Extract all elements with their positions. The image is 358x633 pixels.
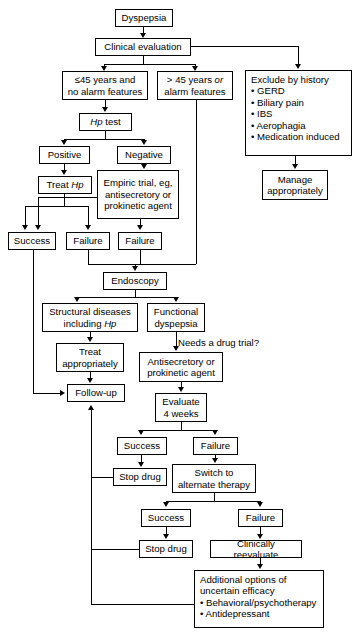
arrow-to-exclude-by-history [295,64,301,69]
arrow-to-empiric-trial [141,164,147,169]
node-follow-up: Follow-up [67,384,125,402]
edge-clinical-to-exclude-h [191,46,299,47]
arrow-to-endoscopy [132,266,138,271]
additional-title-line1: Additional options of [200,574,286,585]
node-manage-appropriately: Manage appropriately [262,170,328,200]
node-negative-label: Negative [125,149,163,160]
exclude-item-aerophagia: • Aerophagia [251,120,306,131]
exclude-title: Exclude by history [251,74,329,85]
arrow-to-negative [141,140,147,145]
node-clinical-evaluation: Clinical evaluation [95,38,191,56]
structural-line1: Structural diseases [49,306,131,317]
edge-treat-hp-right [88,206,89,226]
arrow-treat-hp-to-success [22,225,28,230]
edge-switch-bus [166,501,261,502]
arrow-to-follow-up [87,378,93,383]
edge-functional-to-antisecretory [176,332,177,346]
node-manage-appropriately-label: Manage appropriately [267,174,322,197]
edge-stop-drug-2-return [91,549,140,550]
edge-failure-1-down [88,250,89,264]
edge-success-2-to-stop-drug-1 [141,455,142,462]
treat-hp-italic: Hp [71,179,83,190]
node-failure-4-label: Failure [246,512,275,523]
treat-hp-pre: Treat [47,179,72,190]
edge-stop-drug-1-return [91,477,114,478]
edge-treat-hp-bus [25,206,88,207]
node-stop-drug-2: Stop drug [139,540,193,558]
edge-endoscopy-down [135,290,136,297]
arrow-to-structural-diseases [74,297,80,302]
node-success-2-label: Success [124,440,160,451]
arrow-to-positive [61,140,67,145]
edge-switch-down [214,493,215,501]
arrow-empiric-to-success [35,225,41,230]
node-clinically-reevaluate: Clinically reevaluate [210,540,302,558]
node-success-3-label: Success [148,512,184,523]
node-failure-4: Failure [238,509,283,527]
node-stop-drug-2-label: Stop drug [145,543,187,554]
edge-failure-4-to-reevaluate [260,527,261,534]
node-older-or-alarm-age: > 45 years [167,74,215,85]
node-treat-hp-label: Treat Hp [47,179,84,190]
node-dyspepsia: Dyspepsia [115,9,173,27]
edge-clinical-to-exclude-v [298,46,299,64]
node-treat-appropriately-label: Treat appropriately [62,346,117,369]
arrow-to-functional-dyspepsia [173,297,179,302]
arrow-to-success-3 [163,502,169,507]
node-older-or-alarm-line2: alarm features [164,86,225,97]
edge-endoscopy-split-bus [77,297,176,298]
hp-test-rest: test [103,116,121,127]
node-hp-test-label: Hp test [90,116,120,127]
arrow-return-to-follow-up [88,405,94,410]
caption-needs-drug-trial-label: Needs a drug trial? [178,337,259,348]
exclude-item-medication-induced: • Medication induced [251,131,340,142]
additional-title-line2: uncertain efficacy [200,585,274,596]
arrow-to-manage-appropriately [292,164,298,169]
node-antisecretory-prokinetic: Antisecretory or prokinetic agent [139,352,223,382]
node-older-or-alarm-or: or [215,74,224,85]
edge-failure-2-down [140,250,141,264]
node-older-or-alarm-line1: > 45 years or [167,74,223,85]
node-clinical-evaluation-label: Clinical evaluation [104,41,181,52]
node-empiric-trial-label: Empiric trial, eg, antisecretory or prok… [104,177,173,211]
node-positive-label: Positive [48,149,82,160]
exclude-item-ibs: • IBS [251,108,273,119]
node-functional-dyspepsia: Functional dyspepsia [147,303,205,332]
arrow-treat-hp-to-failure-1 [85,225,91,230]
edge-treat-hp-left [25,206,26,226]
edge-branch-bus [104,64,195,65]
node-failure-1-label: Failure [73,235,102,246]
arrow-to-failure-3 [212,430,218,435]
node-success-3: Success [141,509,191,527]
structural-line2-italic: Hp [104,318,116,329]
node-dyspepsia-label: Dyspepsia [122,12,167,23]
arrow-success-1-to-follow-up [60,390,65,396]
arrow-to-stop-drug-2 [163,534,169,539]
node-success-1: Success [8,232,56,250]
arrow-to-additional-options [257,564,263,569]
edge-hptest-bus [64,139,144,140]
edge-evaluate-down [181,422,182,430]
node-stop-drug-1-label: Stop drug [119,471,161,482]
edge-success-1-down [33,250,34,393]
node-stop-drug-1: Stop drug [113,468,167,486]
arrow-to-failure-2 [137,225,143,230]
node-additional-options: Additional options of uncertain efficacy… [194,570,324,628]
node-failure-3-label: Failure [201,440,230,451]
node-failure-1: Failure [66,232,110,250]
edge-evaluate-bus [141,430,215,431]
node-treat-appropriately: Treat appropriately [56,343,124,372]
flowchart-canvas: Dyspepsia Clinical evaluation ≤45 years … [0,0,358,633]
node-empiric-trial: Empiric trial, eg, antisecretory or prok… [97,170,179,219]
node-young-no-alarm-label: ≤45 years and no alarm features [68,74,143,97]
edge-success-1-to-follow-up [33,393,61,394]
edge-empiric-to-success-v [38,197,39,226]
structural-line2-pre: including [64,318,105,329]
additional-item-antidepressant: • Antidepressant [200,608,270,619]
node-evaluate-4-weeks: Evaluate 4 weeks [155,393,207,422]
node-endoscopy: Endoscopy [103,272,167,290]
edge-left-return-bus [91,410,92,605]
node-success-2: Success [117,437,167,455]
arrow-to-evaluate-4-weeks [178,387,184,392]
node-endoscopy-label: Endoscopy [111,275,158,286]
